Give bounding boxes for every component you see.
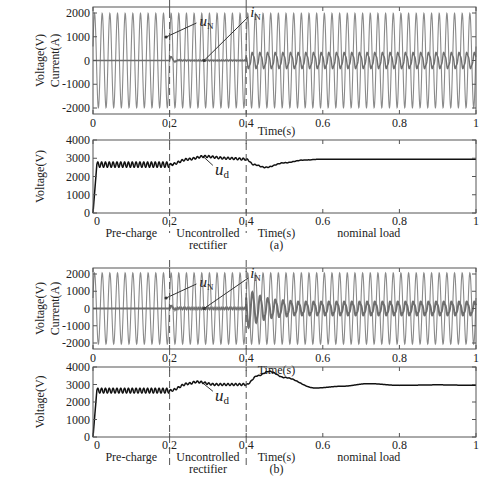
dc-voltage-trace-ud <box>93 155 476 213</box>
y-tick-label: 3000 <box>66 378 90 392</box>
plot-frame <box>93 140 476 213</box>
x-tick-label: 0.8 <box>392 351 407 365</box>
phase-label-rectifier: rectifier <box>189 462 227 476</box>
subfigure-caption: (a) <box>270 238 283 252</box>
panel-a: 200010000-1000-200000.20.40.60.81Time(s)… <box>33 0 479 252</box>
phase-label-nominal-load: nominal load <box>337 450 400 464</box>
y-tick-label: 2000 <box>66 6 90 20</box>
y-tick-label: 1000 <box>66 188 90 202</box>
y-tick-label: 1000 <box>66 30 90 44</box>
y-axis-label-current: Current(A) <box>48 34 62 87</box>
y-axis-label-current: Current(A) <box>48 282 62 335</box>
x-tick-label: 0.6 <box>315 116 330 130</box>
y-tick-label: 2000 <box>66 170 90 184</box>
y-tick-label: -2000 <box>62 101 90 115</box>
y-tick-label: 0 <box>84 54 90 68</box>
x-tick-label: 0 <box>90 351 96 365</box>
y-tick-label: 0 <box>84 430 90 444</box>
panel-b: 200010000-1000-200000.20.40.60.81Time(s)… <box>33 260 479 476</box>
grid-voltage-current-plot: 200010000-1000-200000.20.40.60.81Time(s)… <box>33 265 479 377</box>
y-tick-label: -1000 <box>62 319 90 333</box>
annotation-uN: uN <box>199 13 214 31</box>
y-axis-label: Voltage(V) <box>33 150 47 203</box>
y-tick-label: 1000 <box>66 284 90 298</box>
phase-label-nominal-load: nominal load <box>337 226 400 240</box>
x-tick-label: 0 <box>94 438 100 452</box>
x-tick-label: 0 <box>94 214 100 228</box>
y-tick-label: 4000 <box>66 360 90 374</box>
y-tick-label: 3000 <box>66 151 90 165</box>
x-tick-label: 1 <box>473 116 479 130</box>
annotation-ud: ud <box>215 160 230 180</box>
y-tick-label: 2000 <box>66 267 90 281</box>
x-tick-label: 0.6 <box>315 214 330 228</box>
grid-voltage-current-plot: 200010000-1000-200000.20.40.60.81Time(s)… <box>33 4 479 138</box>
x-tick-label: 0.6 <box>315 438 330 452</box>
y-axis-label: Voltage(V) <box>33 375 47 428</box>
x-tick-label: 1 <box>473 214 479 228</box>
y-axis-label-voltage: Voltage(V) <box>33 282 47 335</box>
y-tick-label: 1000 <box>66 413 90 427</box>
y-tick-label: -1000 <box>62 77 90 91</box>
y-tick-label: 0 <box>84 206 90 220</box>
y-tick-label: 4000 <box>66 133 90 147</box>
x-tick-label: 1 <box>473 351 479 365</box>
x-tick-label: 0.8 <box>392 116 407 130</box>
phase-label-precharge: Pre-charge <box>105 226 157 240</box>
annotation-uN: uN <box>199 274 214 292</box>
x-axis-label: Time(s) <box>258 124 296 138</box>
y-tick-label: 2000 <box>66 395 90 409</box>
annotation-ud: ud <box>215 386 230 406</box>
x-tick-label: 1 <box>473 438 479 452</box>
figure: 200010000-1000-200000.20.40.60.81Time(s)… <box>0 0 495 493</box>
y-tick-label: 0 <box>84 302 90 316</box>
dc-link-voltage-plot: 4000300020001000000.20.40.60.81Voltage(V… <box>33 360 479 476</box>
dc-voltage-trace-ud <box>93 371 476 437</box>
x-tick-label: 0.6 <box>315 351 330 365</box>
phase-label-rectifier: rectifier <box>189 238 227 252</box>
x-tick-label: 0 <box>90 116 96 130</box>
y-tick-label: -2000 <box>62 336 90 350</box>
y-axis-label-voltage: Voltage(V) <box>33 34 47 87</box>
subfigure-caption: (b) <box>270 462 284 476</box>
phase-label-precharge: Pre-charge <box>105 450 157 464</box>
dc-link-voltage-plot: 4000300020001000000.20.40.60.81Voltage(V… <box>33 133 479 252</box>
